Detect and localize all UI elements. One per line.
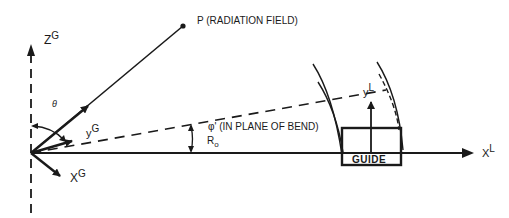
point-p-label: P (RADIATION FIELD) xyxy=(197,15,298,26)
xl-arrowhead-icon xyxy=(462,148,474,158)
theta-arrowhead-icon xyxy=(31,123,38,129)
diagram-svg: ZG P (RADIATION FIELD) θ yG XG φ' (IN PL… xyxy=(0,0,509,218)
guide-label: GUIDE xyxy=(352,154,386,165)
phi-label: φ' (IN PLANE OF BEND) xyxy=(208,121,319,132)
xl-label: XL xyxy=(482,143,495,159)
coordinate-diagram: ZG P (RADIATION FIELD) θ yG XG φ' (IN PL… xyxy=(0,0,509,218)
zg-arrowhead-icon xyxy=(27,44,35,56)
radius-label: Ro xyxy=(207,135,219,149)
xg-vector xyxy=(31,153,60,176)
theta-label: θ xyxy=(52,99,57,109)
zg-axis xyxy=(27,44,35,213)
xl-axis xyxy=(31,148,474,158)
p-vector xyxy=(31,23,186,153)
zg-label: ZG xyxy=(44,30,59,47)
yg-label: yG xyxy=(86,123,100,139)
guide-walls xyxy=(313,62,403,155)
point-p xyxy=(180,23,185,28)
xg-label: XG xyxy=(70,168,86,185)
yl-label: yL xyxy=(363,82,375,98)
phi-arc xyxy=(188,124,194,153)
